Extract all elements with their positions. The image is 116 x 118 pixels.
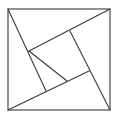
construction-lines	[8, 9, 110, 110]
line-topleft-to-bottom	[8, 9, 46, 91]
line-bottomleft-to-right	[8, 71, 89, 110]
pythagorean-square-diagram	[0, 0, 116, 118]
line-bottomright-to-top	[70, 31, 110, 110]
outer-square	[8, 9, 110, 110]
line-topright-to-left	[29, 9, 110, 51]
